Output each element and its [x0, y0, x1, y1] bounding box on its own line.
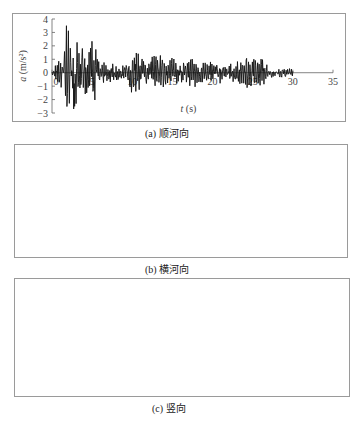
caption-c-text: 竖向 [166, 403, 186, 414]
y-tick-label: 2 [43, 40, 48, 51]
caption-b-text: 横河向 [159, 264, 189, 275]
caption-b: (b) 横河向 [145, 261, 189, 276]
caption-c-prefix: (c) [152, 403, 163, 414]
caption-b-prefix: (b) [145, 264, 157, 275]
y-tick-label: −3 [37, 108, 48, 119]
x-tick-label: 35 [328, 76, 338, 87]
caption-a-prefix: (a) [145, 128, 156, 139]
caption-a: (a) 顺河向 [145, 125, 189, 140]
y-tick-label: 0 [43, 67, 48, 78]
y-tick-label: 3 [43, 27, 48, 38]
caption-a-text: 顺河向 [159, 128, 189, 139]
panel-c-frame [14, 278, 350, 397]
y-axis-label-a: a (m/s²) [17, 50, 29, 82]
panel-b-frame [14, 144, 348, 258]
y-tick-label: −2 [37, 94, 48, 105]
y-tick-label: 1 [43, 54, 48, 65]
x-axis-label-a: t (s) [181, 103, 197, 115]
acceleration-trace-a [52, 26, 293, 109]
x-tick-label: 30 [288, 76, 298, 87]
y-tick-label: −1 [37, 81, 48, 92]
caption-c: (c) 竖向 [152, 400, 186, 415]
y-tick-label: 4 [43, 14, 48, 25]
